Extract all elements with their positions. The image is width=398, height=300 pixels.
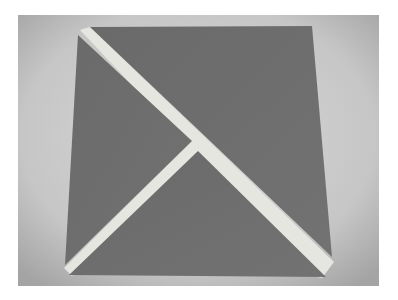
photo: Grayscale photo of a dark square cut int…: [0, 0, 398, 300]
photo-canvas: [0, 0, 398, 300]
